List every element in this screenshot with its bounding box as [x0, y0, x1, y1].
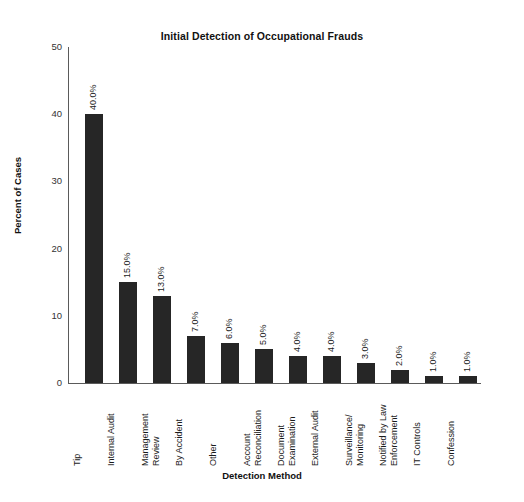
bar[interactable] — [85, 114, 103, 383]
x-tick-label-line: Review — [152, 436, 161, 466]
x-tick-label-line: Reconciliation — [254, 410, 263, 466]
x-tick-label-line: Confession — [447, 421, 456, 466]
x-tick-label-line: Management — [141, 413, 150, 466]
x-tick-label-line: Account — [243, 433, 252, 466]
bar-group[interactable]: 13.0% — [145, 47, 179, 383]
bar-group[interactable]: 15.0% — [111, 47, 145, 383]
bar[interactable] — [119, 282, 137, 383]
bar-group[interactable]: 1.0% — [417, 47, 451, 383]
bar[interactable] — [391, 370, 409, 383]
bar[interactable] — [459, 376, 477, 383]
x-tick-label-line: Internal Audit — [107, 413, 116, 466]
y-tick-label: 30 — [40, 176, 62, 186]
bar[interactable] — [255, 349, 273, 383]
x-tick-label-line: Notified by Law — [379, 404, 388, 466]
y-axis-tick-labels: 01020304050 — [38, 0, 62, 502]
bar-group[interactable]: 1.0% — [451, 47, 485, 383]
bar[interactable] — [221, 343, 239, 383]
bar-group[interactable]: 3.0% — [349, 47, 383, 383]
chart-title: Initial Detection of Occupational Frauds — [0, 30, 524, 42]
x-tick-label-line: External Audit — [311, 410, 320, 466]
bar[interactable] — [187, 336, 205, 383]
x-tick-label-line: IT Controls — [413, 422, 422, 466]
x-tick-label-line: Monitoring — [356, 424, 365, 466]
plot-area: 40.0%15.0%13.0%7.0%6.0%5.0%4.0%4.0%3.0%2… — [69, 47, 481, 383]
y-axis-title: Percent of Cases — [12, 146, 23, 246]
x-tick-label-line: Enforcement — [390, 415, 399, 466]
x-axis-category-labels: TipInternal AuditManagementReviewBy Acci… — [69, 386, 481, 466]
x-tick-label-line: By Accident — [175, 419, 184, 466]
bar-group[interactable]: 5.0% — [247, 47, 281, 383]
bar[interactable] — [153, 296, 171, 383]
bar-group[interactable]: 40.0% — [77, 47, 111, 383]
bar-group[interactable]: 2.0% — [383, 47, 417, 383]
x-tick-label-line: Surveillance/ — [345, 414, 354, 466]
bar-group[interactable]: 7.0% — [179, 47, 213, 383]
y-tick-label: 40 — [40, 109, 62, 119]
y-tick-label: 20 — [40, 244, 62, 254]
bar[interactable] — [425, 376, 443, 383]
x-tick-label-line: Examination — [288, 416, 297, 466]
y-tick-label: 50 — [40, 42, 62, 52]
x-tick-label-line: Other — [209, 443, 218, 466]
bar[interactable] — [289, 356, 307, 383]
x-tick-label-line: Tip — [73, 454, 82, 466]
bar[interactable] — [357, 363, 375, 383]
x-axis-title: Detection Method — [0, 470, 524, 481]
x-tick-label: Confession — [451, 386, 485, 466]
y-tick-label: 0 — [40, 378, 62, 388]
bar-group[interactable]: 4.0% — [315, 47, 349, 383]
bar-chart: Initial Detection of Occupational Frauds… — [0, 0, 524, 502]
x-axis-line — [68, 383, 481, 384]
x-tick-label-line: Document — [277, 425, 286, 466]
y-tick-label: 10 — [40, 311, 62, 321]
bar-group[interactable]: 6.0% — [213, 47, 247, 383]
bar-group[interactable]: 4.0% — [281, 47, 315, 383]
bar[interactable] — [323, 356, 341, 383]
